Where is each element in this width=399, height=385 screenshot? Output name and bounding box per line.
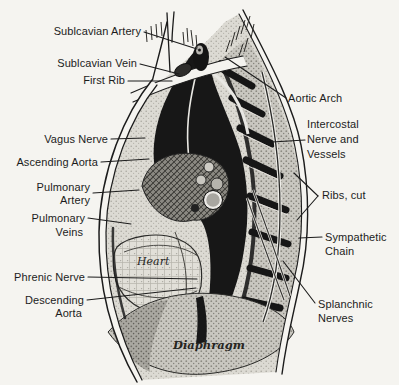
label-splanchnic-nerves-line1: Splanchnic [318,298,373,310]
label-subclavian-vein: Sublcavian Vein [57,57,137,69]
label-descending-aorta-line1: Descending [25,294,84,306]
label-sympathetic-chain-line2: Chain [325,245,354,257]
label-subclavian-artery: Sublcavian Artery [54,25,142,37]
label-aortic-arch: Aortic Arch [288,92,342,104]
label-phrenic-nerve: Phrenic Nerve [14,271,85,283]
label-ascending-aorta: Ascending Aorta [16,156,98,168]
vessel-stump-ring [205,192,221,208]
vessel-stump [196,175,206,185]
label-vagus-nerve: Vagus Nerve [44,133,108,145]
thorax-illustration: Sublcavian Artery Sublcavian Vein First … [0,0,399,385]
label-pulmonary-artery-line2: Artery [60,194,90,206]
label-diaphragm: Diaphragm [172,338,245,352]
anatomy-figure: Sublcavian Artery Sublcavian Vein First … [0,0,399,385]
label-pulmonary-veins-line2: Veins [56,226,84,238]
subclavian-artery-shape [193,43,209,71]
vessel-stump [211,178,223,190]
label-ribs-cut: Ribs, cut [322,189,366,201]
label-intercostal-line2: Nerve and [307,133,359,145]
label-first-rib: First Rib [83,74,125,86]
label-intercostal-line1: Intercostal [307,118,359,130]
label-pulmonary-veins-line1: Pulmonary [32,212,86,224]
label-sympathetic-chain-line1: Sympathetic [325,231,387,243]
label-intercostal-line3: Vessels [307,148,346,160]
label-heart: Heart [136,255,170,268]
label-descending-aorta-line2: Aorta [55,307,83,319]
label-pulmonary-artery-line1: Pulmonary [37,181,91,193]
vessel-stump [204,162,214,172]
vessel-stump [191,204,199,212]
label-splanchnic-nerves-line2: Nerves [318,312,354,324]
